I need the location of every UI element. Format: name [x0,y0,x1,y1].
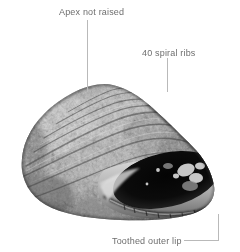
annotation-label-lip: Toothed outer lip [112,236,182,247]
annotation-label-apex: Apex not raised [59,7,124,18]
figure-canvas [0,0,240,252]
annotated-shell-figure: Apex not raised 40 spiral ribs Toothed o… [0,0,240,252]
shell-photo [6,78,226,226]
leader-lip [184,214,219,241]
annotation-label-ribs: 40 spiral ribs [142,48,196,59]
